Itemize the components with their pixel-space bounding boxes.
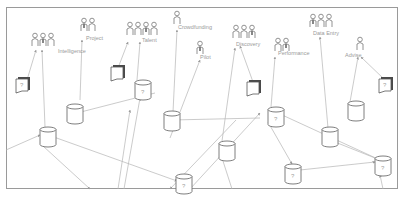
connector-arrow [124, 98, 140, 189]
edges-layer [6, 30, 385, 193]
actor-label: Discovery [236, 41, 260, 47]
person-icon [48, 33, 54, 46]
actor-label: Performance [278, 50, 310, 56]
connector-arrow [335, 142, 380, 160]
connector-arrow [350, 57, 358, 102]
connector-arrow [173, 30, 177, 112]
connector-arrow [51, 136, 177, 181]
person-icon [32, 33, 38, 46]
actor-group[interactable]: Data Entry [310, 14, 339, 36]
person-icon [318, 14, 324, 27]
database-icon[interactable]: ? [375, 156, 391, 176]
person-icon [135, 22, 141, 35]
connector-arrow [380, 175, 383, 189]
actor-label: Advise [345, 52, 362, 58]
connector-arrow [118, 110, 130, 189]
connector-arrow [222, 48, 235, 141]
actor-label: Project [86, 35, 104, 41]
database-icon[interactable] [40, 127, 56, 147]
database-icon[interactable]: ? [268, 107, 284, 127]
connector-arrow [27, 50, 36, 80]
connector-arrow [118, 42, 128, 68]
actor-label: Pilot [200, 54, 211, 60]
person-icon [81, 18, 87, 31]
connector-arrow [361, 57, 385, 80]
actor-group[interactable]: Performance [275, 38, 310, 56]
actor-group[interactable]: Pilot [197, 41, 211, 60]
document-icon[interactable] [247, 80, 261, 96]
actor-label: Talent [142, 37, 157, 43]
connector-arrow [320, 37, 328, 128]
person-icon [197, 41, 203, 54]
connector-arrow [222, 158, 232, 189]
actor-label: Crowdfunding [178, 24, 212, 30]
database-icon[interactable]: ? [176, 174, 192, 194]
connector-arrow [137, 42, 140, 80]
person-icon [143, 22, 149, 35]
person-icon [233, 25, 239, 38]
person-icon [249, 25, 255, 38]
database-icon[interactable]: ? [135, 80, 151, 100]
actor-group[interactable]: Talent [127, 22, 157, 43]
database-icon[interactable] [219, 141, 235, 161]
person-icon [357, 37, 363, 50]
actor-group[interactable]: Advise [345, 37, 363, 58]
diagram-canvas: IntelligenceProjectTalentCrowdfundingPil… [0, 0, 407, 207]
document-icon[interactable]: ? [16, 77, 30, 93]
database-icon[interactable] [348, 101, 364, 121]
connector-arrow [300, 162, 375, 170]
database-icon[interactable]: ? [285, 164, 301, 184]
actor-group[interactable]: Discovery [233, 25, 260, 47]
document-icon[interactable]: ? [379, 77, 393, 93]
actor-group[interactable]: Crowdfunding [174, 11, 212, 30]
database-icon[interactable] [67, 104, 83, 124]
person-icon [241, 25, 247, 38]
person-icon [127, 22, 133, 35]
connector-arrow [43, 146, 90, 189]
connector-arrow [271, 57, 275, 107]
database-icon[interactable] [164, 111, 180, 131]
person-icon [310, 14, 316, 27]
person-icon [40, 33, 46, 46]
person-icon [174, 11, 180, 24]
connector-arrow [42, 50, 45, 127]
diagram-svg: IntelligenceProjectTalentCrowdfundingPil… [0, 0, 407, 207]
document-icon[interactable] [111, 65, 125, 81]
nodes-layer: IntelligenceProjectTalentCrowdfundingPil… [16, 11, 393, 194]
person-icon [326, 14, 332, 27]
actor-group[interactable]: Project [81, 18, 104, 41]
connector-arrow [268, 122, 292, 164]
actor-label: Data Entry [313, 30, 339, 36]
actor-label: Intelligence [58, 48, 86, 54]
person-icon [89, 18, 95, 31]
connector-arrow [172, 118, 260, 120]
person-icon [151, 22, 157, 35]
database-icon[interactable] [322, 127, 338, 147]
connector-arrow [240, 46, 253, 82]
actor-group[interactable]: Intelligence [32, 33, 86, 54]
connector-arrow [6, 135, 40, 150]
